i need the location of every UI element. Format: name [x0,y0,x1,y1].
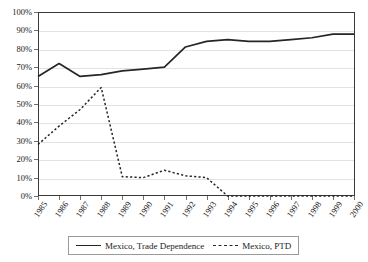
x-tick-label: 1989 [117,200,134,219]
legend-entry: Mexico, Trade Dependence [76,241,204,251]
series-line-2 [38,87,354,196]
x-tick-label: 1996 [264,200,281,219]
y-tick-label: 30% [16,136,32,145]
x-tick-label: 1986 [53,200,70,219]
x-tick-label: 1990 [138,200,155,219]
x-tick-label: 1992 [180,200,197,219]
x-tick-label: 1998 [306,200,323,219]
legend-swatch-solid [76,241,101,250]
legend-swatch-dashed [213,241,238,250]
x-tick-label: 2000 [348,200,365,219]
y-axis: 0%10%20%30%40%50%60%70%80%90%100% [0,12,35,196]
line-chart: 0%10%20%30%40%50%60%70%80%90%100% 198519… [0,0,368,262]
legend-entry: Mexico, PTD [213,241,291,251]
y-tick-label: 90% [16,26,32,35]
y-tick-label: 0% [21,192,32,201]
x-tick-label: 1991 [159,200,176,219]
series-line-1 [38,34,354,76]
y-tick-label: 20% [16,155,32,164]
x-tick-label: 1995 [243,200,260,219]
y-tick-label: 10% [16,173,32,182]
legend: Mexico, Trade DependenceMexico, PTD [68,236,299,255]
x-tick-label: 1985 [32,200,49,219]
x-tick-label: 1993 [201,200,218,219]
x-tick-label: 1999 [327,200,344,219]
x-tick-label: 1994 [222,200,239,219]
series-layer [38,12,355,196]
y-tick-label: 50% [16,100,32,109]
y-tick-label: 80% [16,44,32,53]
x-axis: 1985198619871988198919901991199219931994… [38,200,355,232]
legend-label: Mexico, Trade Dependence [105,241,204,251]
legend-line-glyph [76,245,101,246]
legend-line-glyph [213,245,238,246]
x-tick-label: 1987 [74,200,91,219]
y-tick-label: 70% [16,63,32,72]
legend-label: Mexico, PTD [242,241,291,251]
x-tick-label: 1988 [95,200,112,219]
x-tick-label: 1997 [285,200,302,219]
y-tick-label: 100% [12,8,32,17]
y-tick-label: 40% [16,118,32,127]
y-tick-label: 60% [16,81,32,90]
